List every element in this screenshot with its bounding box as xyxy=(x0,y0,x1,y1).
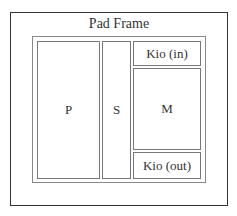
pad-frame-title: Pad Frame xyxy=(10,16,228,32)
block-p: P xyxy=(37,41,100,179)
block-kio-in: Kio (in) xyxy=(133,41,201,66)
block-kio-out-label: Kio (out) xyxy=(143,158,191,174)
block-m-label: M xyxy=(161,101,173,117)
block-p-label: P xyxy=(65,102,72,118)
block-s-label: S xyxy=(113,102,120,118)
block-kio-in-label: Kio (in) xyxy=(146,46,188,62)
block-s: S xyxy=(102,41,131,179)
block-m: M xyxy=(133,68,201,150)
block-kio-out: Kio (out) xyxy=(133,152,201,179)
